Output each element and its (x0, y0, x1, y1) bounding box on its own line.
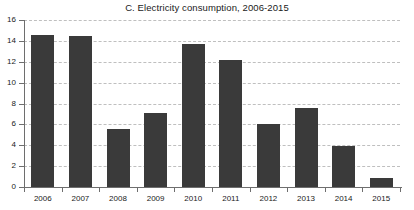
y-tick-label: 16 (0, 16, 16, 24)
x-tick-mark (362, 187, 363, 192)
bars-group (24, 20, 400, 187)
y-tick-label: 14 (0, 37, 16, 45)
y-tick-label: 0 (0, 183, 16, 191)
x-tick-label: 2008 (99, 194, 137, 203)
bar (182, 44, 205, 187)
x-tick-mark (287, 187, 288, 192)
x-tick-mark (400, 187, 401, 192)
y-tick-mark (19, 124, 24, 125)
x-tick-label: 2011 (212, 194, 250, 203)
bar (144, 113, 167, 187)
x-tick-mark (24, 187, 25, 192)
bar (295, 108, 318, 187)
bar (69, 36, 92, 187)
y-tick-mark (19, 62, 24, 63)
x-tick-mark (174, 187, 175, 192)
y-tick-mark (19, 166, 24, 167)
y-tick-label: 10 (0, 79, 16, 87)
x-tick-label: 2012 (250, 194, 288, 203)
bar (31, 35, 54, 187)
x-tick-label: 2015 (362, 194, 400, 203)
x-tick-label: 2010 (174, 194, 212, 203)
x-tick-mark (62, 187, 63, 192)
bar (219, 60, 242, 187)
x-tick-mark (325, 187, 326, 192)
bar (370, 178, 393, 187)
x-tick-mark (137, 187, 138, 192)
chart-title: C. Electricity consumption, 2006-2015 (0, 2, 414, 14)
y-tick-label: 4 (0, 141, 16, 149)
y-tick-label: 2 (0, 162, 16, 170)
x-tick-mark (212, 187, 213, 192)
x-tick-label: 2007 (62, 194, 100, 203)
y-tick-mark (19, 83, 24, 84)
y-tick-mark (19, 41, 24, 42)
x-tick-label: 2013 (287, 194, 325, 203)
x-tick-mark (250, 187, 251, 192)
y-axis-line (24, 20, 25, 187)
x-tick-label: 2006 (24, 194, 62, 203)
y-tick-label: 6 (0, 120, 16, 128)
y-tick-mark (19, 20, 24, 21)
chart-container: C. Electricity consumption, 2006-2015 02… (0, 0, 414, 210)
bar (332, 146, 355, 187)
x-tick-mark (99, 187, 100, 192)
y-tick-mark (19, 145, 24, 146)
bar (107, 129, 130, 187)
y-tick-mark (19, 104, 24, 105)
x-axis-line (24, 187, 402, 188)
y-tick-label: 12 (0, 58, 16, 66)
bar (257, 124, 280, 187)
y-tick-label: 8 (0, 100, 16, 108)
x-tick-label: 2014 (325, 194, 363, 203)
plot-area (24, 20, 400, 187)
x-tick-label: 2009 (137, 194, 175, 203)
